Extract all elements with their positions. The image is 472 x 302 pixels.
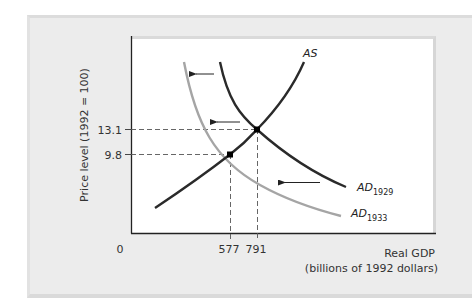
xtick-label-577: 577: [219, 243, 240, 256]
ad1933-label: AD1933: [350, 207, 387, 223]
x-axis-title: Real GDP: [384, 247, 435, 260]
equilibrium-1933-point: [227, 152, 233, 158]
as-curve: [155, 62, 304, 208]
ytick-label-13-1: 13.1: [98, 124, 123, 137]
ad1929-label: AD1929: [356, 181, 393, 197]
x-axis-subtitle: (billions of 1992 dollars): [305, 262, 438, 275]
ytick-label-9-8: 9.8: [105, 149, 123, 162]
equilibrium-1929-point: [254, 127, 260, 133]
origin-label: 0: [117, 243, 124, 256]
as-label: AS: [302, 47, 318, 60]
ad1933-curve: [184, 62, 341, 216]
ad1929-curve: [220, 62, 346, 187]
y-axis-title: Price level (1992 = 100): [78, 68, 91, 202]
xtick-label-791: 791: [246, 243, 267, 256]
